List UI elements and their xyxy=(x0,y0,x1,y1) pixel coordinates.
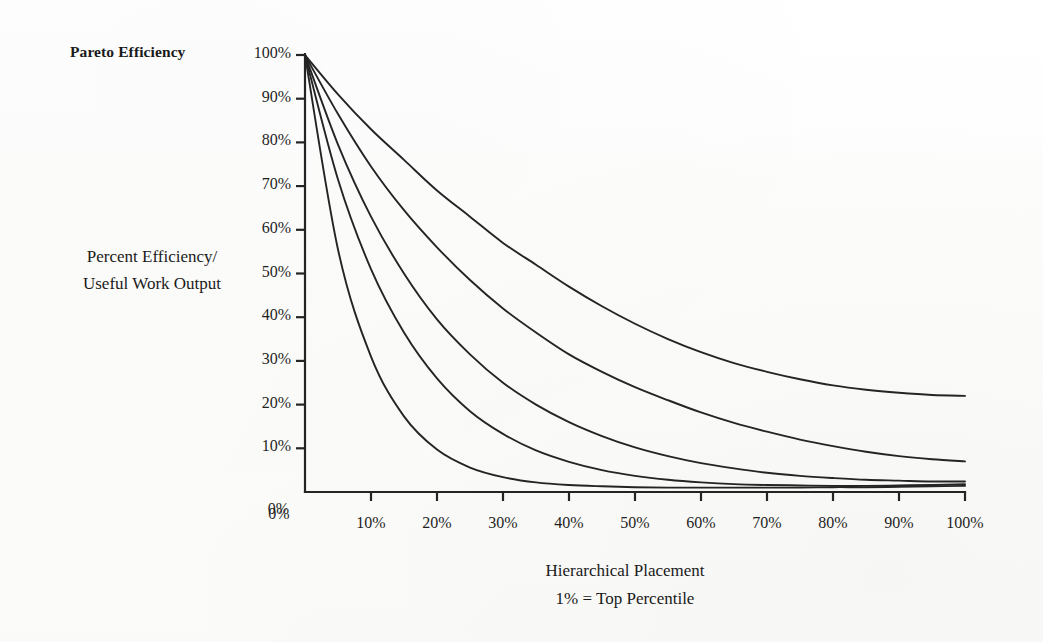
x-axis-tick-label: 90% xyxy=(869,514,929,532)
y-axis-tick-label: 10% xyxy=(229,437,291,455)
data-curve xyxy=(305,55,965,396)
axes xyxy=(296,54,965,501)
x-axis-tick-label: 100% xyxy=(935,514,995,532)
y-axis-tick-label: 80% xyxy=(229,131,291,149)
x-axis-tick-label: 80% xyxy=(803,514,863,532)
y-axis-tick-label: 30% xyxy=(229,350,291,368)
pareto-efficiency-plot xyxy=(0,0,1043,642)
y-axis-tick-label: 50% xyxy=(229,263,291,281)
y-axis-tick-label: 20% xyxy=(229,394,291,412)
x-axis-tick-label: 60% xyxy=(671,514,731,532)
data-curve xyxy=(305,55,965,486)
y-axis-tick-label: 90% xyxy=(229,88,291,106)
x-axis-tick-label: 40% xyxy=(539,514,599,532)
data-curve xyxy=(305,55,965,461)
y-axis-tick-label: 100% xyxy=(229,44,291,62)
x-axis-tick-label: 70% xyxy=(737,514,797,532)
x-axis-tick-label: 0% xyxy=(249,505,309,523)
x-axis-tick-label: 10% xyxy=(341,514,401,532)
x-axis-tick-label: 30% xyxy=(473,514,533,532)
x-axis-tick-label: 50% xyxy=(605,514,665,532)
curve-series-group xyxy=(305,55,965,488)
chart-page: Pareto Efficiency Percent Efficiency/ Us… xyxy=(0,0,1043,642)
data-curve xyxy=(305,55,965,488)
y-axis-tick-label: 40% xyxy=(229,306,291,324)
x-axis-tick-label: 20% xyxy=(407,514,467,532)
y-axis-tick-label: 60% xyxy=(229,219,291,237)
y-axis-tick-label: 70% xyxy=(229,175,291,193)
